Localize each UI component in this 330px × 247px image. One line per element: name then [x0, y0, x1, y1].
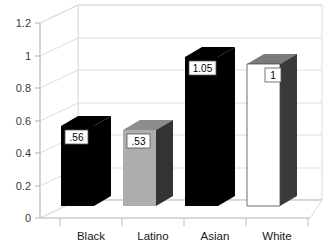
- y-tick-label-4: 0.8: [16, 82, 31, 94]
- bar-white-value-label: 1: [265, 68, 281, 82]
- bar-white-side: [280, 54, 297, 206]
- y-tick-label-1: 0.2: [16, 180, 31, 192]
- y-tick-label-2: 0.4: [16, 147, 31, 159]
- bar-black-value-label: .56: [65, 130, 88, 144]
- x-tick-label-latino: Latino: [137, 230, 168, 242]
- x-tick-label-asian: Asian: [201, 230, 230, 242]
- bar-asian-side: [218, 47, 235, 206]
- x-axis-ticks: [60, 218, 308, 226]
- y-tick-label-6: 1.2: [16, 17, 31, 29]
- bar-white-front: [247, 64, 280, 206]
- bar-chart: 0 0.2 0.4 0.6 0.8 1 1.2 .56 .53: [0, 0, 330, 247]
- bar-asian-value-text: 1.05: [193, 63, 213, 74]
- y-tick-label-3: 0.6: [16, 115, 31, 127]
- bar-latino-value-label: .53: [127, 134, 150, 148]
- y-axis-ticks: [35, 23, 40, 218]
- chart-canvas: 0 0.2 0.4 0.6 0.8 1 1.2 .56 .53: [0, 0, 330, 247]
- bar-asian-front: [185, 57, 218, 206]
- bar-latino[interactable]: [123, 120, 173, 206]
- bar-white-value-text: 1: [270, 70, 276, 81]
- bar-asian-value-label: 1.05: [189, 61, 216, 75]
- bar-black-value-text: .56: [70, 132, 84, 143]
- x-tick-label-white: White: [262, 230, 291, 242]
- y-tick-label-5: 1: [25, 50, 31, 62]
- bar-latino-side: [156, 120, 173, 206]
- bar-latino-value-text: .53: [132, 136, 146, 147]
- y-tick-label-0: 0: [25, 212, 31, 224]
- bar-black-side: [94, 116, 111, 206]
- x-tick-label-black: Black: [77, 230, 105, 242]
- bar-black[interactable]: [61, 116, 111, 206]
